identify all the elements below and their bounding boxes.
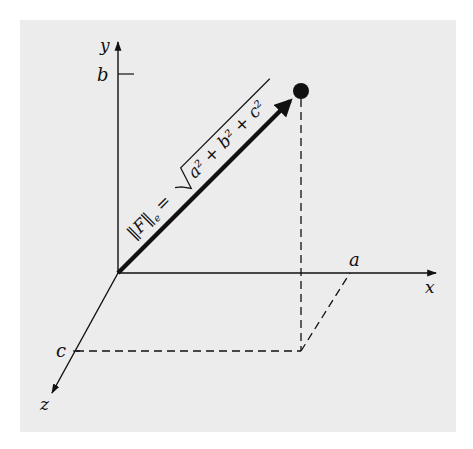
z-axis-label: z [39,394,50,414]
y-axis-label: y [99,35,110,55]
projection-x [301,273,350,351]
svg-text:‖F‖e=: ‖F‖e= [123,191,177,245]
c-label: c [56,340,66,361]
b-label: b [97,64,109,85]
x-axis-label: x [425,277,435,297]
norm-formula: ‖F‖e= a² + b² + c² [121,79,286,244]
z-axis [52,273,118,393]
endpoint-dot [293,83,309,99]
norm-equals: = [151,191,175,215]
a-label: a [349,249,360,270]
vector-3d-diagram: y b x a z c ‖F‖e= a² + b² + c² [0,0,473,449]
vector-f [118,101,290,273]
norm-rhs: a² + b² + c² [183,96,269,182]
